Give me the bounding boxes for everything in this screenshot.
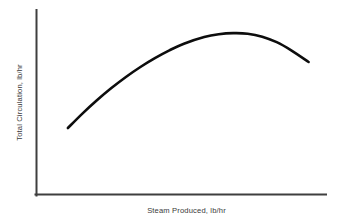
x-axis-label: Steam Produced, lb/hr: [0, 206, 337, 215]
data-curve-total-circulation: [68, 33, 309, 128]
chart-canvas: [0, 0, 337, 222]
chart-figure: Steam Produced, lb/hr Total Circulation,…: [0, 0, 337, 222]
y-axis-label: Total Circulation, lb/hr: [15, 10, 29, 195]
